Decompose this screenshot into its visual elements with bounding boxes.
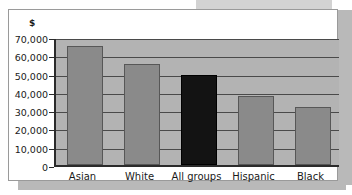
x-tick-label-black: Black	[282, 171, 339, 182]
plot-area	[54, 39, 339, 167]
y-tick-label: 20,000	[0, 125, 48, 136]
x-tick-label-hispanic: Hispanic	[225, 171, 282, 182]
y-tick-label: 40,000	[0, 88, 48, 99]
x-tick-label-all-groups: All groups	[168, 171, 225, 182]
y-tick-label: 50,000	[0, 70, 48, 81]
chart-figure: $ 010,00020,00030,00040,00050,00060,0007…	[0, 0, 352, 195]
x-axis: AsianWhiteAll groupsHispanicBlack	[54, 169, 339, 189]
bar-asian	[67, 46, 103, 165]
bar-white	[124, 64, 160, 165]
x-tick-label-asian: Asian	[54, 171, 111, 182]
bar-black	[295, 107, 331, 165]
y-tick-label: 70,000	[0, 34, 48, 45]
y-tick-label: 60,000	[0, 52, 48, 63]
bar-all-groups	[181, 75, 217, 165]
plot-inner	[56, 39, 339, 165]
y-tick-label: 10,000	[0, 143, 48, 154]
gridline	[56, 39, 339, 40]
y-tick-label: 30,000	[0, 107, 48, 118]
y-axis-unit-label: $	[29, 18, 35, 28]
y-axis: 010,00020,00030,00040,00050,00060,00070,…	[9, 39, 54, 167]
chart-page-card: $ 010,00020,00030,00040,00050,00060,0007…	[8, 9, 338, 181]
y-tick-label: 0	[0, 162, 48, 173]
bar-hispanic	[238, 96, 274, 165]
y-tick-mark	[49, 167, 54, 168]
x-tick-label-white: White	[111, 171, 168, 182]
